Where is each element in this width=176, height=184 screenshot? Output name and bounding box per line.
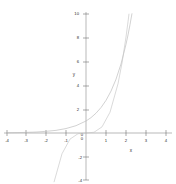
y-tick-label: 2 xyxy=(77,107,80,112)
x-tick-label: -1 xyxy=(64,138,68,143)
y-tick-label: 4 xyxy=(77,83,80,88)
x-axis-tick-labels: -4 -3 -2 -1 0 1 2 3 4 xyxy=(5,136,168,143)
x-tick-label: -3 xyxy=(24,138,28,143)
y-axis-tick-labels: 10 8 6 4 2 0 -2 -4 xyxy=(74,11,83,183)
curve-exponential xyxy=(6,13,132,132)
x-tick-label: 4 xyxy=(165,138,168,143)
x-tick-label: 3 xyxy=(145,138,148,143)
plot-svg: -4 -3 -2 -1 0 1 2 3 4 10 8 6 4 2 0 xyxy=(0,0,176,184)
y-tick-label: -2 xyxy=(78,155,82,160)
x-tick-label: 2 xyxy=(125,138,128,143)
data-curves xyxy=(6,13,132,182)
y-axis-label: y xyxy=(73,72,76,77)
x-tick-label: -2 xyxy=(44,138,48,143)
y-tick-label: 10 xyxy=(74,11,79,16)
x-axis-label: x xyxy=(130,148,133,153)
plot-figure: -4 -3 -2 -1 0 1 2 3 4 10 8 6 4 2 0 xyxy=(0,0,176,184)
y-tick-label: 8 xyxy=(77,35,80,40)
axes-group xyxy=(4,12,172,180)
x-tick-label: 1 xyxy=(105,138,108,143)
x-tick-label: -4 xyxy=(5,138,9,143)
y-tick-label: -4 xyxy=(78,178,82,183)
y-tick-label: 6 xyxy=(77,59,80,64)
curve-cubic xyxy=(54,14,129,182)
